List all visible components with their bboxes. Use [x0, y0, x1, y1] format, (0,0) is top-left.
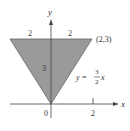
x-axis-label: x [120, 99, 125, 109]
height-label: 3 [42, 64, 46, 73]
y-axis-label: y [47, 7, 52, 17]
equation-lhs: y = [75, 73, 87, 82]
equation-numerator: 3 [95, 68, 99, 76]
top-left-width-label: 2 [28, 29, 32, 38]
line-equation: y = 3 2 x [75, 68, 105, 86]
corner-point-label: (2,3) [96, 35, 112, 44]
diagram: y x 0 2 2 2 3 (2,3) y = 3 2 x [0, 0, 130, 131]
top-right-width-label: 2 [68, 29, 72, 38]
x-tick-label-2: 2 [91, 109, 95, 118]
x-axis-arrow-icon [113, 102, 119, 106]
equation-denominator: 2 [95, 78, 99, 86]
origin-label: 0 [44, 109, 48, 118]
equation-variable: x [100, 73, 105, 82]
y-axis-arrow-icon [49, 19, 53, 25]
